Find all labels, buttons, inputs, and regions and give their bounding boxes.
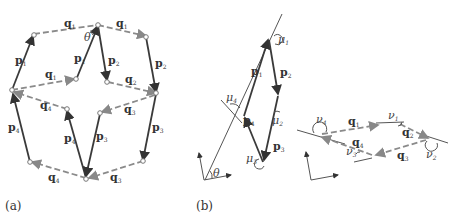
node [154,91,159,96]
label-mu3: μ3 [246,152,257,165]
label-p2-right: p2 [155,57,167,70]
node [144,35,149,40]
label-p2: p2 [280,66,292,79]
nu2-line [420,134,448,143]
node [10,88,15,93]
panel-c: ν4 ν1 ν2 ν3 q1 q2 q3 q4 [297,109,448,180]
angle-arc-theta [91,30,93,35]
node [65,107,70,112]
label-p1: p1 [251,65,263,78]
label-mu2: μ2 [272,114,283,127]
edge-q1-mid-left [12,79,74,90]
label-q2: q2 [402,126,414,139]
angle-arc-mu2 [274,111,280,112]
label-nu1: ν1 [388,109,399,122]
label-q1-top-left: q1 [64,17,76,30]
label-p3-right: p3 [152,121,164,134]
edge-p2-inner [98,26,107,80]
axis-x [311,175,338,180]
label-nu4: ν4 [316,113,327,126]
caption-b: (b) [196,199,213,213]
node [141,159,146,164]
node [32,33,37,38]
angle-arc-nu3 [356,152,360,154]
diagram-canvas: p1 p1 p2 p2 p4 p4 p3 p3 q1 q1 q1 q2 q4 q… [0,0,457,216]
label-q1-mid-left: q1 [45,68,57,81]
edge-q4-bottom [32,162,86,178]
angle-theta-label: θ [84,31,91,44]
nu3-line [354,158,372,162]
node [98,111,103,116]
label-q4-mid-left: q4 [40,99,52,112]
label-q4-bottom: q4 [48,171,60,184]
edge-p3-inner [86,114,100,176]
label-p4: p4 [243,114,255,127]
node [28,160,33,165]
label-mu4: μ4 [226,91,237,104]
node [74,77,79,82]
label-q1: q1 [348,115,360,128]
label-q2-mid-right: q2 [125,73,137,86]
angle-arc-theta [210,171,212,178]
label-p1-inner: p1 [74,52,86,65]
angle-theta-label: θ [213,167,220,180]
label-p3-inner: p3 [96,130,108,143]
label-p2-inner: p2 [108,54,120,67]
panel-a: p1 p1 p2 p2 p4 p4 p3 p3 q1 q1 q1 q2 q4 q… [5,17,167,213]
reference-line [205,14,282,180]
node [96,23,101,28]
axis-y [199,153,204,180]
node [105,80,110,85]
edge-p2 [269,40,278,94]
nu1-line [376,122,404,123]
node [84,177,89,182]
label-q3: q3 [397,149,409,162]
panel-b: μ1 μ2 μ3 μ4 p1 p2 p3 p4 θ (b) [196,14,292,213]
label-p4-left: p4 [8,121,20,134]
label-q4: q4 [352,136,364,149]
label-q1-top-right: q1 [116,17,128,30]
caption-a: (a) [5,199,22,213]
label-q3-bottom: q3 [110,171,122,184]
label-p3: p3 [273,140,285,153]
label-mu1: μ1 [278,33,289,46]
edge-p1 [244,40,268,116]
label-q3-mid-right: q3 [124,103,136,116]
axis-y [306,152,311,180]
